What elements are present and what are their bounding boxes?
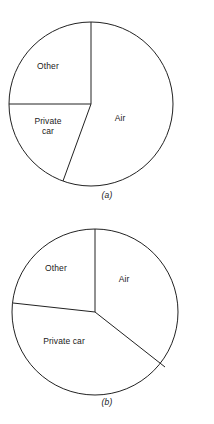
pie-chart-a-graphic bbox=[0, 0, 214, 212]
pie-chart-a: Air Other Private car (a) bbox=[0, 0, 214, 212]
pie-chart-b-graphic bbox=[0, 212, 214, 424]
pie-chart-b: Air Other Private car (b) bbox=[0, 212, 214, 424]
pie-b-caption: (b) bbox=[0, 397, 214, 407]
pie-a-caption: (a) bbox=[0, 190, 214, 200]
